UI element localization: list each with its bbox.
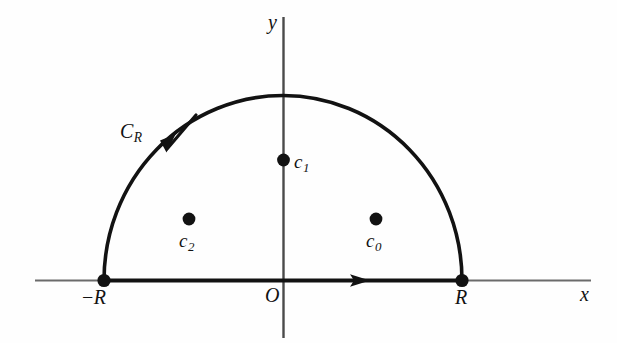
arc-label-CR-sub: R [133, 130, 142, 145]
pole-dot-c0 [370, 213, 383, 226]
y-axis-label: y [268, 12, 277, 32]
endpoint-label-minus-R: −R [82, 287, 106, 307]
minus-sign: − [82, 286, 94, 308]
pole-label-c0: c0 [366, 231, 381, 254]
pole-label-c2: c2 [179, 231, 194, 254]
minus-R-letter: R [94, 286, 106, 308]
contour-figure: y x O −R R CR c1 c2 c0 [0, 0, 617, 343]
pole-label-c1: c1 [294, 152, 309, 175]
pole-label-c1-sub: 1 [302, 160, 309, 175]
arc-label-CR: CR [120, 121, 142, 145]
origin-label: O [265, 285, 279, 305]
pole-dot-c1 [277, 154, 290, 167]
pole-dot-c2 [183, 213, 196, 226]
pole-label-c0-sub: 0 [374, 239, 381, 254]
arc-label-CR-main: C [120, 120, 133, 142]
endpoint-label-R: R [455, 287, 467, 307]
arc-direction-arrow-shaft [167, 115, 196, 149]
x-axis-label: x [580, 284, 589, 304]
pole-label-c2-sub: 2 [187, 239, 194, 254]
